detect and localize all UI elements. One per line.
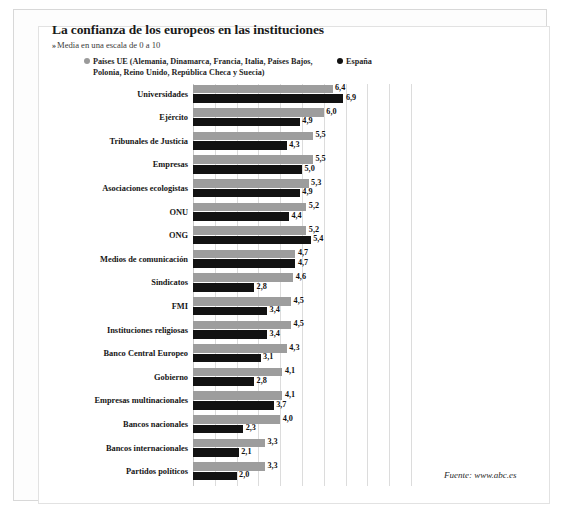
bar-value-label-es: 2,8 [257,377,267,386]
category-label: Ejército [36,113,188,123]
legend-swatch-icon-paises-ue [84,58,90,64]
bar-value-label-eu: 4,0 [283,415,293,424]
legend-swatch-icon-espana [337,58,343,64]
bar-value-label-es: 4,4 [291,212,301,221]
category-label: FMI [36,302,188,312]
bar-group: 6,04,9 [193,108,411,132]
bar-group: 5,24,4 [193,202,411,226]
legend-label-espana: España [346,57,372,66]
bar-value-label-es: 3,7 [276,401,286,410]
page-title: La confianza de los europeos en las inst… [52,22,324,38]
bar-group: 4,74,7 [193,249,411,273]
legend-label-paises-ue-line2: Polonia, Reino Unido, República Checa y … [93,68,334,79]
bar-eu [193,462,265,471]
chevron-right-icon: » [52,41,56,50]
bar-value-label-es: 4,9 [302,117,312,126]
legend-label-paises-ue-line1: Países UE (Alemania, Dinamarca, Francia,… [93,57,313,66]
bar-es [193,472,237,481]
bar-value-label-es: 3,1 [263,353,273,362]
bar-es [193,283,254,292]
bar-eu [193,321,291,330]
bar-es [193,425,243,434]
bar-value-label-es: 5,0 [305,165,315,174]
bar-value-label-eu: 4,5 [294,320,304,329]
category-label: Instituciones religiosas [36,326,188,336]
category-label: Asociaciones ecologistas [36,184,188,194]
bar-eu [193,179,309,188]
bar-group: 4,53,4 [193,296,411,320]
bar-value-label-eu: 4,7 [298,249,308,258]
bar-value-label-es: 6,9 [346,94,356,103]
bar-es [193,401,274,410]
bar-rows: 6,46,96,04,95,54,35,55,05,34,95,24,45,25… [193,84,411,486]
bar-group: 6,46,9 [193,84,411,108]
bar-group: 5,55,0 [193,155,411,179]
source-attribution: Fuente: www.abc.es [444,470,517,480]
bar-value-label-es: 5,4 [313,235,323,244]
bar-group: 4,02,3 [193,414,411,438]
bar-eu [193,203,306,212]
chart-plot-area: 6,46,96,04,95,54,35,55,05,34,95,24,45,25… [193,84,411,486]
category-label: Bancos internacionales [36,444,188,454]
bar-es [193,448,239,457]
category-label: Gobierno [36,373,188,383]
chart-subtitle-text: Media en una escala de 0 a 10 [57,40,160,50]
bar-value-label-es: 4,9 [302,188,312,197]
category-label: Empresas multinacionales [36,396,188,406]
bar-group: 4,33,1 [193,344,411,368]
category-label: ONU [36,208,188,218]
bar-eu [193,155,313,164]
chart-legend: Países UE (Alemania, Dinamarca, Francia,… [84,57,424,81]
bar-eu [193,391,282,400]
bar-value-label-es: 3,4 [270,330,280,339]
bar-group: 5,34,9 [193,178,411,202]
bar-value-label-eu: 5,2 [309,202,319,211]
bar-value-label-es: 4,7 [298,259,308,268]
bar-group: 3,32,0 [193,462,411,486]
bar-es [193,377,254,386]
bar-es [193,354,261,363]
bar-eu [193,250,295,259]
category-label: Empresas [36,160,188,170]
bar-eu [193,273,293,282]
category-label: Universidades [36,90,188,100]
category-label: Banco Central Europeo [36,349,188,359]
bar-value-label-es: 2,3 [246,424,256,433]
legend-item-paises-ue: Países UE (Alemania, Dinamarca, Francia,… [84,57,334,78]
gridline-10 [411,84,412,486]
bar-es [193,212,289,221]
bar-eu [193,85,333,94]
bar-es [193,118,300,127]
bar-es [193,330,267,339]
bar-es [193,165,302,174]
bar-es [193,141,287,150]
page-background: La confianza de los europeos en las inst… [0,0,574,525]
bar-group: 3,32,1 [193,438,411,462]
bar-value-label-eu: 5,5 [315,155,325,164]
bar-group: 4,53,4 [193,320,411,344]
bar-value-label-es: 3,4 [270,306,280,315]
bar-value-label-eu: 3,3 [267,438,277,447]
category-label: Tribunales de Justicia [36,137,188,147]
chart-subtitle: »Media en una escala de 0 a 10 [52,40,160,50]
bar-value-label-eu: 5,3 [311,179,321,188]
bar-group: 4,13,7 [193,391,411,415]
bar-value-label-eu: 4,5 [294,297,304,306]
category-label: Sindicatos [36,278,188,288]
category-label: ONG [36,231,188,241]
category-axis-labels: UniversidadesEjércitoTribunales de Justi… [36,84,188,486]
bar-value-label-eu: 4,1 [285,391,295,400]
bar-value-label-eu: 5,2 [309,226,319,235]
bar-value-label-eu: 6,0 [326,108,336,117]
category-label: Medios de comunicación [36,255,188,265]
bar-es [193,259,295,268]
bar-es [193,236,311,245]
bar-group: 4,12,8 [193,367,411,391]
bar-value-label-es: 2,1 [241,448,251,457]
bar-value-label-eu: 4,3 [289,344,299,353]
bar-value-label-es: 4,3 [289,141,299,150]
bar-group: 5,54,3 [193,131,411,155]
bar-eu [193,226,306,235]
bar-eu [193,415,280,424]
category-label: Bancos nacionales [36,420,188,430]
